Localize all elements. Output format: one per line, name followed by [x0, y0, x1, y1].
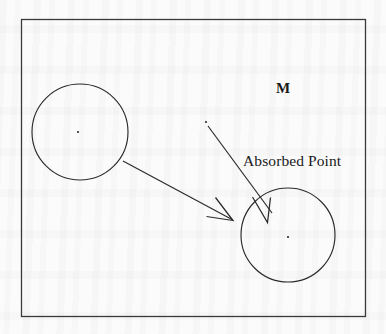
space-label-m: M — [276, 81, 290, 96]
target-circle-center-point — [287, 236, 289, 238]
source-circle-center-point — [77, 131, 79, 133]
absorbed-point — [205, 121, 207, 123]
figure-canvas: M Absorbed Point — [0, 0, 386, 334]
absorbed-point-arrow — [208, 126, 272, 223]
mapping-arrow — [123, 161, 233, 221]
absorbed-point-label: Absorbed Point — [243, 153, 341, 169]
source-circle — [32, 84, 128, 180]
